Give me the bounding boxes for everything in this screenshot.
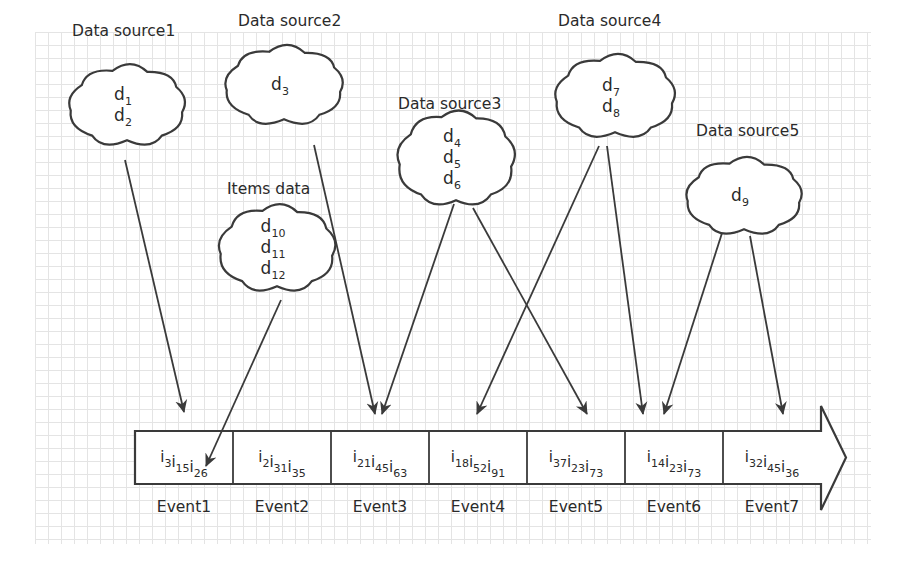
edge-ds4-to-event6 xyxy=(607,146,643,414)
source-label: Data source2 xyxy=(238,12,341,30)
source-ds5: Data source5d9 xyxy=(686,122,801,234)
event-timeline: i3i15i26Event1i2i31i35Event2i21i45i63Eve… xyxy=(135,406,846,516)
event-label: Event7 xyxy=(745,498,799,516)
source-label: Data source3 xyxy=(398,95,501,113)
source-ds3: Data source3d4d5d6 xyxy=(397,95,514,204)
edge-ds5-to-event6 xyxy=(664,230,723,414)
source-label: Data source5 xyxy=(696,122,799,140)
edge-ds5-to-event7 xyxy=(750,236,783,414)
event-label: Event3 xyxy=(353,498,407,516)
data-sources: Data source1d1d2Data source2d3Data sourc… xyxy=(69,12,802,291)
event-label: Event1 xyxy=(157,498,211,516)
source-label: Data source1 xyxy=(72,22,175,40)
source-ds2: Data source2d3 xyxy=(225,12,342,124)
event-label: Event5 xyxy=(549,498,603,516)
event-label: Event4 xyxy=(451,498,505,516)
source-ds4: Data source4d7d8 xyxy=(555,12,675,137)
diagram-svg: i3i15i26Event1i2i31i35Event2i21i45i63Eve… xyxy=(0,0,903,569)
source-items: Items datad10d11d12 xyxy=(219,180,335,291)
diagram-canvas: i3i15i26Event1i2i31i35Event2i21i45i63Eve… xyxy=(0,0,903,569)
event-label: Event6 xyxy=(647,498,701,516)
source-label: Items data xyxy=(227,180,310,198)
edge-ds1-to-event1 xyxy=(125,160,184,412)
edge-ds2-to-event3 xyxy=(314,145,375,414)
source-label: Data source4 xyxy=(558,12,661,30)
source-ds1: Data source1d1d2 xyxy=(69,22,185,145)
edge-ds3-to-event3 xyxy=(382,204,454,414)
event-label: Event2 xyxy=(255,498,309,516)
